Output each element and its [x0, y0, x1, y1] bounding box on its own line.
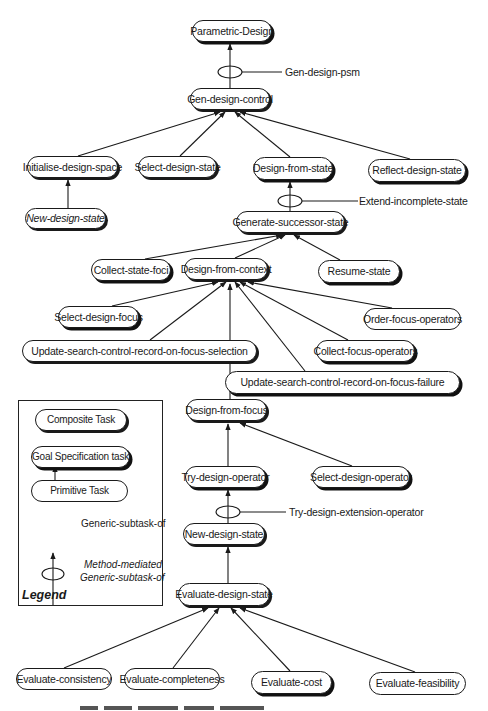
- node-evaluate-consistency[interactable]: Evaluate-consistency: [16, 668, 112, 690]
- legend-goal-specification-task: Goal Specification task: [31, 446, 130, 468]
- node-design-from-context[interactable]: Design-from-context: [184, 258, 268, 280]
- node-collect-state-foci[interactable]: Collect-state-foci: [91, 259, 171, 281]
- node-new-design-state-italic[interactable]: New-design-state: [25, 208, 106, 229]
- node-design-from-focus[interactable]: Design-from-focus: [186, 399, 267, 421]
- node-design-from-state[interactable]: Design-from-state: [253, 157, 333, 180]
- node-try-design-operator[interactable]: Try-design-operator: [185, 466, 266, 488]
- node-resume-state[interactable]: Resume-state: [318, 260, 400, 283]
- legend-method-mediated-line1: Method-mediated: [84, 559, 162, 572]
- node-select-design-focus[interactable]: Select-design-focus: [58, 306, 139, 328]
- node-reflect-design-state[interactable]: Reflect-design-state: [368, 159, 466, 182]
- caption-truncated: [80, 706, 280, 711]
- node-update-on-focus-failure[interactable]: Update-search-control-record-on-focus-fa…: [225, 371, 460, 394]
- method-label-try-design-extension-operator: Try-design-extension-operator: [289, 507, 423, 518]
- node-new-design-state[interactable]: New-design-state: [183, 523, 265, 545]
- method-label-gen-design-psm: Gen-design-psm: [285, 67, 360, 78]
- legend-box: Composite Task Goal Specification task P…: [18, 400, 163, 606]
- legend-primitive-task: Primitive Task: [31, 480, 128, 502]
- method-label-extend-incomplete-state: Extend-incomplete-state: [359, 196, 468, 207]
- node-update-on-focus-selection[interactable]: Update-search-control-record-on-focus-se…: [22, 340, 257, 362]
- node-gen-design-control[interactable]: Gen-design-control: [190, 88, 270, 110]
- node-evaluate-completeness[interactable]: Evaluate-completeness: [124, 668, 220, 690]
- node-parametric-design[interactable]: Parametric-Design: [192, 20, 272, 42]
- node-generate-successor-state[interactable]: Generate-successor-state: [236, 211, 345, 233]
- legend-generic-subtask-label: Generic-subtask-of: [81, 518, 165, 531]
- node-order-focus-operators[interactable]: Order-focus-operators: [364, 308, 461, 330]
- node-select-design-operator[interactable]: Select-design-operator: [312, 466, 410, 488]
- legend-title: Legend: [22, 588, 66, 602]
- node-evaluate-cost[interactable]: Evaluate-cost: [251, 671, 332, 694]
- legend-composite-task: Composite Task: [35, 409, 127, 431]
- node-initialise-design-space[interactable]: Initialise-design-space: [27, 156, 118, 178]
- node-select-design-state[interactable]: Select-design-state: [138, 156, 217, 178]
- node-collect-focus-operators[interactable]: Collect-focus-operators: [316, 340, 415, 362]
- legend-method-mediated-line2: Generic-subtask-of: [80, 572, 164, 585]
- node-evaluate-feasibility[interactable]: Evaluate-feasibility: [369, 672, 466, 695]
- node-evaluate-design-state[interactable]: Evaluate-design-state: [178, 583, 270, 606]
